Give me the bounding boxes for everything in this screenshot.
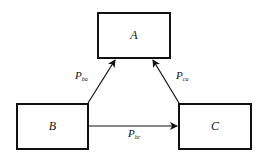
node-a-label: A bbox=[130, 28, 137, 43]
edge-label-ca-main: P bbox=[176, 69, 183, 81]
diagram-canvas: A B C Pba Pca Pbc bbox=[0, 0, 263, 160]
edge-label-bc: Pbc bbox=[128, 128, 140, 140]
edge-label-ba-main: P bbox=[75, 69, 82, 81]
node-b: B bbox=[16, 103, 89, 150]
edge-b-to-a-arrow bbox=[88, 60, 115, 103]
node-c: C bbox=[178, 103, 252, 150]
node-a: A bbox=[97, 12, 171, 59]
edge-label-ba-sub: ba bbox=[82, 76, 88, 82]
edge-label-ba: Pba bbox=[75, 70, 88, 82]
edge-label-bc-main: P bbox=[128, 127, 135, 139]
node-c-label: C bbox=[211, 119, 219, 134]
node-b-label: B bbox=[49, 119, 56, 134]
edge-label-ca-sub: ca bbox=[183, 76, 189, 82]
edge-label-bc-sub: bc bbox=[135, 134, 141, 140]
edge-label-ca: Pca bbox=[176, 70, 188, 82]
